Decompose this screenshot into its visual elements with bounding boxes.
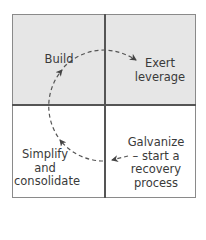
label-galvanize-line1: Galvanize xyxy=(110,136,202,150)
label-exert-leverage: Exert leverage xyxy=(130,57,190,84)
label-build-text: Build xyxy=(45,52,74,66)
label-simplify-line3: consolidate xyxy=(14,175,76,189)
label-build: Build xyxy=(36,53,82,67)
label-galvanize: Galvanize – start a recovery process xyxy=(110,136,202,190)
label-exert-line2: leverage xyxy=(130,71,190,85)
label-simplify-line1: Simplify xyxy=(14,148,76,162)
label-simplify-line2: and xyxy=(14,162,76,176)
arrow-build xyxy=(49,70,62,137)
label-galvanize-line3: recovery process xyxy=(110,163,202,190)
label-exert-line1: Exert xyxy=(130,57,190,71)
label-simplify-consolidate: Simplify and consolidate xyxy=(14,148,76,189)
label-galvanize-line2: – start a xyxy=(110,150,202,164)
